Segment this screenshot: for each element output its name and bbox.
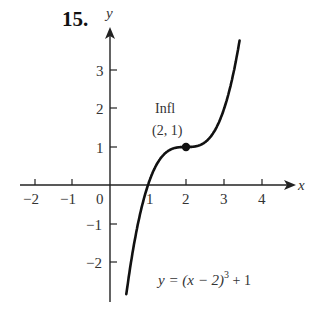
x-tick-label: 3: [220, 191, 228, 207]
inflection-coords: (2, 1): [152, 123, 183, 139]
equation-rhs: + 1: [229, 273, 251, 288]
y-tick-label: −1: [86, 217, 102, 233]
problem-number: 15.: [62, 7, 88, 31]
y-axis-label: y: [104, 5, 113, 21]
y-tick-label: −2: [86, 255, 102, 271]
graph: 15. x y −2 −1 0 1 2 3 4 3 2 1 −1 −2 Infl…: [0, 0, 310, 316]
equation: y = (x − 2)3 + 1: [156, 269, 251, 289]
inflection-label: Infl: [155, 101, 175, 116]
x-tick-label: −2: [23, 191, 39, 207]
x-tick-label: 2: [182, 191, 190, 207]
x-axis-label: x: [297, 177, 305, 193]
inflection-point: [182, 143, 190, 151]
y-tick-label: 2: [96, 101, 104, 117]
function-curve: [126, 41, 239, 295]
x-tick-label: −1: [60, 191, 76, 207]
x-tick-label: 1: [146, 191, 154, 207]
equation-lhs: y = (x − 2): [156, 272, 224, 289]
x-tick-label: 0: [96, 191, 104, 207]
x-tick-label: 4: [258, 191, 266, 207]
y-ticks: [110, 70, 117, 262]
y-tick-label: 1: [96, 140, 104, 156]
y-tick-label: 3: [96, 63, 104, 79]
